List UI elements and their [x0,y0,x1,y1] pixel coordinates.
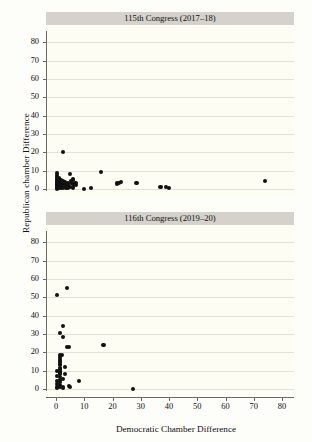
data-point [131,387,135,391]
y-tick-label: 70 [19,257,39,265]
x-tick-label: 80 [272,403,292,411]
y-tick [43,171,46,172]
y-tick [43,97,46,98]
data-point [63,365,67,369]
y-tick [43,152,46,153]
y-tick-label: 20 [19,348,39,356]
y-tick-label: 50 [19,93,39,101]
data-point [263,179,267,183]
y-tick-label: 20 [19,148,39,156]
x-tick-label: 50 [187,403,207,411]
data-point [158,185,162,189]
gridline [46,279,294,280]
y-tick-label: 0 [19,185,39,193]
x-tick-label: 60 [216,403,236,411]
x-tick [226,398,227,401]
y-axis-line [46,31,47,191]
gridline [46,297,294,298]
x-tick [197,398,198,401]
plot-area [46,225,294,397]
data-point [67,345,71,349]
gridline [46,316,294,317]
x-tick-label: 40 [159,403,179,411]
x-tick [56,398,57,401]
y-tick-label: 40 [19,312,39,320]
y-tick [43,61,46,62]
y-tick [43,189,46,190]
y-tick [43,279,46,280]
y-axis-line [46,231,47,391]
gridline [46,97,294,98]
gridline [46,79,294,80]
x-axis-label: Democratic Chamber Difference [40,424,312,434]
plot-area [46,25,294,197]
data-point [134,181,138,185]
y-tick [43,389,46,390]
data-point [61,335,65,339]
panel-title-strip: 115th Congress (2017–18) [46,12,294,25]
scatter-figure: Republican chamber Difference Democratic… [0,0,312,442]
y-tick-label: 60 [19,275,39,283]
y-tick [43,134,46,135]
gridline [46,242,294,243]
x-tick [254,398,255,401]
y-tick-label: 0 [19,385,39,393]
data-point [63,372,67,376]
data-point [68,385,72,389]
data-point [68,172,72,176]
y-tick [43,297,46,298]
x-tick-label: 10 [74,403,94,411]
y-tick [43,242,46,243]
y-tick [43,371,46,372]
data-point [61,324,65,328]
x-tick [84,398,85,401]
data-point [119,180,123,184]
gridline [46,134,294,135]
data-point [99,170,103,174]
y-tick-label: 80 [19,38,39,46]
y-tick [43,261,46,262]
gridline [46,61,294,62]
x-tick-label: 20 [103,403,123,411]
gridline [46,352,294,353]
y-tick [43,116,46,117]
y-tick-label: 30 [19,130,39,138]
x-tick-label: 0 [46,403,66,411]
x-tick [141,398,142,401]
y-tick-label: 60 [19,75,39,83]
data-point [101,343,105,347]
data-point [77,379,81,383]
panel-title-strip: 116th Congress (2019–20) [46,212,294,225]
x-tick-label: 70 [244,403,264,411]
gridline [46,371,294,372]
y-tick-label: 40 [19,112,39,120]
x-tick [282,398,283,401]
data-point [82,187,86,191]
y-tick-label: 70 [19,57,39,65]
data-point [74,183,78,187]
gridline [46,42,294,43]
y-tick-label: 50 [19,293,39,301]
gridline [46,116,294,117]
y-tick [43,42,46,43]
gridline [46,261,294,262]
x-tick-label: 30 [131,403,151,411]
gridline [46,389,294,390]
y-tick-label: 10 [19,367,39,375]
y-tick [43,316,46,317]
y-tick-label: 10 [19,167,39,175]
panel-115th-congress: 115th Congress (2017–18)0102030405060708… [46,12,294,197]
y-tick-label: 30 [19,330,39,338]
y-tick [43,79,46,80]
y-tick [43,334,46,335]
data-point [65,286,69,290]
y-tick [43,352,46,353]
gridline [46,334,294,335]
gridline [46,171,294,172]
y-tick-label: 80 [19,238,39,246]
x-tick [169,398,170,401]
x-tick [113,398,114,401]
data-point [61,150,65,154]
x-axis-line [46,397,294,398]
gridline [46,152,294,153]
